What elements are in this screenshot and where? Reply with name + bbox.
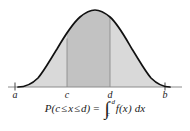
axis-tick-label-a: a [8, 90, 22, 100]
probability-formula: P(c≤x≤d)=∫dcf(x)dx [0, 102, 190, 116]
formula-relation-1: ≤ [60, 102, 68, 114]
integral-lower-limit: c [106, 111, 109, 118]
formula-differential: dx [135, 102, 145, 114]
axis-tick-label-c: c [60, 90, 74, 100]
formula-equals: = [90, 102, 102, 114]
formula-prob-open: P( [45, 102, 55, 114]
integral-upper-limit: d [111, 99, 115, 106]
integral-sign-group: ∫dc [104, 102, 109, 116]
formula-integrand: f(x) [116, 102, 132, 114]
axis-tick-label-b: b [158, 90, 172, 100]
formula-relation-2: ≤ [73, 102, 81, 114]
probability-density-figure: a c d b P(c≤x≤d)=∫dcf(x)dx [0, 0, 190, 131]
